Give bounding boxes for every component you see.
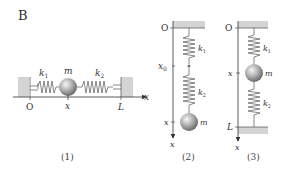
caption-3: (3) xyxy=(247,152,260,162)
left-wall xyxy=(18,77,29,97)
label-end-L: L xyxy=(117,102,124,112)
spring-k2 xyxy=(248,82,260,127)
label-mass: m xyxy=(265,69,273,78)
label-mass: m xyxy=(200,118,208,127)
spring-mass-diagram: B k1 m k2 O x L x (1) O k1 x0 k2 xyxy=(0,0,283,172)
label-axis: x xyxy=(235,143,240,152)
label-origin: O xyxy=(26,102,33,112)
label-mass: m xyxy=(64,66,73,76)
mass-ball xyxy=(245,64,263,82)
label-axis: x xyxy=(144,92,149,102)
spring-k2 xyxy=(77,81,121,93)
label-position: x xyxy=(228,69,233,78)
spring-k1 xyxy=(183,28,195,64)
mass-ball xyxy=(180,113,198,131)
figure-3-between-walls: O k1 x m k2 L x (3) xyxy=(225,21,273,162)
figure-1-horizontal: k1 m k2 O x L x (1) xyxy=(13,66,149,162)
floor xyxy=(238,127,268,134)
label-k2: k2 xyxy=(263,99,271,109)
label-x0: x0 xyxy=(158,61,167,72)
label-origin: O xyxy=(225,23,232,33)
label-end-L: L xyxy=(226,122,233,132)
label-k1: k1 xyxy=(263,44,271,54)
label-k1: k1 xyxy=(39,68,48,79)
junction-node xyxy=(187,64,190,67)
label-axis: x xyxy=(170,140,175,149)
spring-k2 xyxy=(183,68,195,114)
panel-label: B xyxy=(18,8,28,23)
label-position: x xyxy=(65,101,70,111)
spring-k1 xyxy=(248,28,260,64)
spring-k1 xyxy=(30,81,59,93)
label-k1: k1 xyxy=(198,44,206,54)
label-k2: k2 xyxy=(198,88,206,98)
ceiling xyxy=(173,21,205,28)
label-position: x xyxy=(164,118,169,127)
mass-ball xyxy=(59,78,77,96)
ceiling xyxy=(238,21,268,28)
caption-1: (1) xyxy=(61,152,74,162)
label-k2: k2 xyxy=(95,68,104,79)
caption-2: (2) xyxy=(182,152,195,162)
figure-2-hanging: O k1 x0 k2 x m x (2) xyxy=(158,21,208,162)
label-origin: O xyxy=(161,23,168,33)
right-wall xyxy=(121,77,133,97)
